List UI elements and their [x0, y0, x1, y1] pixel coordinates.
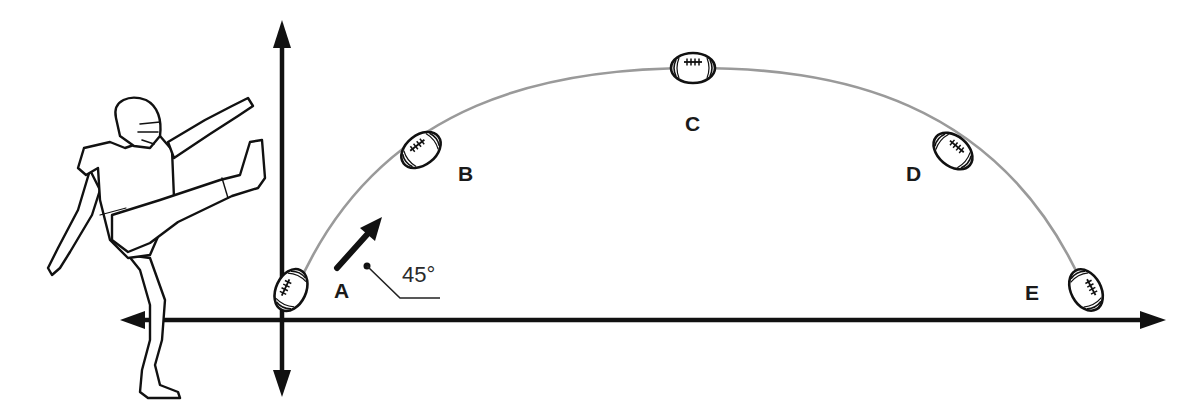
vertical-axis: [273, 20, 291, 397]
football-icon-e: [1062, 264, 1109, 317]
football-icon-d: [927, 125, 980, 176]
velocity-arrow-icon: [337, 217, 382, 268]
arrow-right-icon: [1140, 311, 1166, 329]
football-icon-b: [394, 125, 447, 176]
point-label-d: D: [906, 162, 921, 185]
football-icon-c: [671, 53, 715, 83]
arrow-up-icon: [273, 20, 291, 48]
football-icon-a: [268, 264, 314, 317]
angle-label: 45°: [402, 262, 435, 287]
arrow-left-icon: [120, 311, 145, 329]
point-label-a: A: [334, 279, 349, 302]
projectile-diagram: 45° A B C D E: [0, 0, 1204, 414]
point-label-e: E: [1025, 281, 1039, 304]
point-label-c: C: [685, 112, 700, 135]
trajectory-arc: [296, 68, 1085, 290]
point-label-b: B: [458, 162, 473, 185]
kicker-figure: [48, 98, 265, 398]
arrow-down-icon: [273, 370, 291, 397]
horizontal-axis: [120, 311, 1166, 329]
